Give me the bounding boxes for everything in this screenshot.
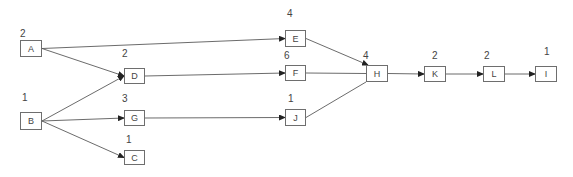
node-i: I: [535, 66, 557, 82]
edges-layer: [0, 0, 573, 177]
edge-a-e: [42, 39, 285, 49]
duration-label-i: 1: [544, 46, 550, 57]
edge-j-h: [306, 82, 366, 118]
edge-e-h: [306, 39, 368, 66]
node-e: E: [285, 30, 306, 47]
edge-b-d: [42, 76, 124, 121]
edge-a-d: [42, 49, 124, 77]
duration-label-j: 1: [288, 93, 294, 104]
node-f: F: [285, 65, 306, 81]
node-b: B: [20, 112, 42, 130]
node-l: L: [483, 66, 505, 82]
duration-label-a: 2: [20, 28, 26, 39]
edge-f-h: [306, 73, 366, 74]
edge-b-c: [42, 121, 124, 158]
node-d: D: [124, 68, 145, 84]
edge-b-g: [42, 118, 124, 121]
duration-label-g: 3: [122, 93, 128, 104]
node-j: J: [285, 109, 306, 126]
duration-label-h: 4: [363, 50, 369, 61]
duration-label-d: 2: [122, 48, 128, 59]
network-diagram: A2B1D2G3C1E4F6J1H4K2L2I1: [0, 0, 573, 177]
edge-h-k: [388, 74, 424, 75]
node-k: K: [424, 66, 446, 82]
node-g: G: [124, 110, 145, 126]
duration-label-b: 1: [22, 92, 28, 103]
node-c: C: [124, 150, 145, 165]
node-a: A: [20, 40, 42, 57]
duration-label-c: 1: [126, 134, 132, 145]
duration-label-e: 4: [287, 8, 293, 19]
node-h: H: [366, 65, 388, 82]
duration-label-f: 6: [284, 50, 290, 61]
edge-g-j: [145, 118, 285, 119]
duration-label-k: 2: [432, 50, 438, 61]
edge-d-f: [145, 73, 285, 76]
duration-label-l: 2: [484, 50, 490, 61]
